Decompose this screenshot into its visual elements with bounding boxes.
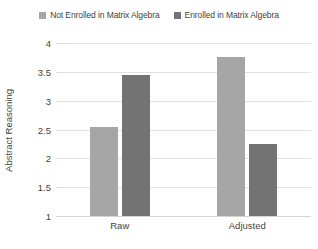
y-axis-tick-label: 3.5	[38, 66, 51, 77]
y-axis-title-text: Abstract Reasoning	[3, 89, 14, 172]
chart-legend: Not Enrolled in Matrix Algebra Enrolled …	[0, 10, 318, 20]
y-axis-title: Abstract Reasoning	[1, 43, 15, 217]
legend-label-not-enrolled: Not Enrolled in Matrix Algebra	[50, 10, 159, 20]
y-axis-tick-label: 2	[46, 153, 51, 164]
legend-entry-enrolled[interactable]: Enrolled in Matrix Algebra	[174, 10, 279, 20]
y-axis-tick-label: 1	[46, 211, 51, 222]
square-swatch-light-icon	[39, 12, 46, 19]
bars	[56, 43, 311, 216]
bar[interactable]	[122, 75, 150, 216]
y-axis-tick-label: 4	[46, 38, 51, 49]
x-axis-category-labels: RawAdjusted	[56, 220, 311, 236]
bar[interactable]	[90, 127, 118, 216]
plot-area: 43.532.521.51	[56, 43, 311, 216]
bar-chart: Not Enrolled in Matrix Algebra Enrolled …	[0, 0, 318, 249]
bar[interactable]	[217, 57, 245, 216]
legend-label-enrolled: Enrolled in Matrix Algebra	[185, 10, 279, 20]
legend-entry-not-enrolled[interactable]: Not Enrolled in Matrix Algebra	[39, 10, 159, 20]
y-axis-tick-label: 1.5	[38, 182, 51, 193]
x-axis-category-label: Raw	[110, 220, 129, 231]
y-axis-tick-label: 2.5	[38, 124, 51, 135]
y-axis-tick-label: 3	[46, 95, 51, 106]
gridline	[56, 216, 311, 217]
bar[interactable]	[249, 144, 277, 216]
x-axis-category-label: Adjusted	[229, 220, 266, 231]
square-swatch-dark-icon	[174, 12, 181, 19]
